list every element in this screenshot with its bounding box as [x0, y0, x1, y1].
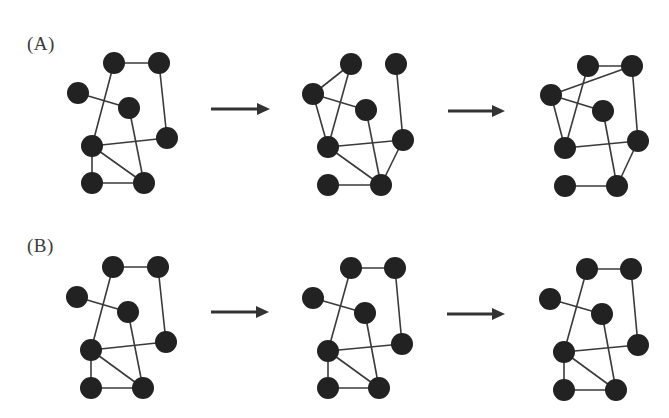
graph-node — [627, 334, 649, 356]
graph-node — [340, 257, 362, 279]
graph-node — [103, 52, 125, 74]
graph-a-1 — [67, 52, 178, 194]
graph-node — [620, 258, 642, 280]
graph-node — [606, 175, 628, 197]
graph-edge — [328, 140, 403, 147]
graph-edge — [159, 63, 167, 138]
graph-node — [621, 55, 643, 77]
graph-edge — [602, 314, 616, 390]
graph-a-2 — [302, 53, 414, 196]
graph-node — [155, 331, 177, 353]
graph-edge — [565, 141, 638, 148]
graph-node — [317, 340, 339, 362]
graph-edge — [631, 269, 638, 345]
graph-b-1 — [66, 256, 177, 399]
graph-node — [148, 52, 170, 74]
graph-edge — [92, 138, 167, 146]
graph-node — [540, 84, 562, 106]
arrow-icon — [448, 105, 505, 117]
graph-node — [391, 333, 413, 355]
graph-node — [355, 99, 377, 121]
graph-a-3 — [540, 55, 649, 197]
graph-node — [554, 137, 576, 159]
graph-node — [302, 287, 324, 309]
graph-node — [66, 286, 88, 308]
graph-node — [156, 127, 178, 149]
graph-b-3 — [539, 258, 649, 401]
graph-node — [302, 83, 324, 105]
graph-node — [132, 377, 154, 399]
graph-node — [81, 135, 103, 157]
graph-transition-figure: (A) (B) — [0, 0, 669, 418]
graph-node — [392, 129, 414, 151]
graph-node — [117, 301, 139, 323]
arrow-icon — [447, 308, 505, 320]
graph-node — [576, 258, 598, 280]
graph-edge — [564, 269, 587, 352]
arrow-icon — [211, 306, 269, 318]
graph-b-2 — [302, 257, 413, 399]
graph-edge — [328, 268, 351, 351]
graph-node — [317, 136, 339, 158]
graph-edge — [632, 66, 638, 141]
graph-node — [539, 288, 561, 310]
graph-node — [80, 339, 102, 361]
graph-node — [118, 97, 140, 119]
arrow-icon — [211, 103, 270, 115]
graph-node — [317, 377, 339, 399]
graph-edge — [91, 342, 166, 350]
graph-node — [385, 53, 407, 75]
graph-node — [102, 256, 124, 278]
graph-node — [592, 100, 614, 122]
graph-node — [133, 172, 155, 194]
graph-node — [340, 53, 362, 75]
graph-edge — [396, 64, 403, 140]
graph-edge — [565, 66, 588, 148]
graph-edge — [128, 312, 143, 388]
graph-edge — [564, 345, 638, 352]
graph-edge — [395, 268, 402, 344]
graph-node — [553, 379, 575, 401]
graph-canvas — [0, 0, 669, 418]
graph-edge — [366, 110, 381, 185]
graph-node — [80, 377, 102, 399]
graph-node — [553, 341, 575, 363]
graph-node — [317, 174, 339, 196]
graph-node — [354, 302, 376, 324]
graph-edge — [129, 108, 144, 183]
graph-node — [81, 172, 103, 194]
graph-node — [147, 256, 169, 278]
graph-edge — [603, 111, 617, 186]
graph-edge — [91, 267, 113, 350]
graph-node — [577, 55, 599, 77]
graph-node — [370, 174, 392, 196]
graph-node — [627, 130, 649, 152]
graph-edge — [328, 64, 351, 147]
graph-edge — [92, 63, 114, 146]
graph-edge — [365, 313, 379, 388]
graph-edge — [158, 267, 166, 342]
graph-edge — [328, 344, 402, 351]
graph-node — [67, 82, 89, 104]
graph-node — [605, 379, 627, 401]
graph-node — [384, 257, 406, 279]
graph-node — [368, 377, 390, 399]
graph-node — [554, 175, 576, 197]
graph-node — [591, 303, 613, 325]
